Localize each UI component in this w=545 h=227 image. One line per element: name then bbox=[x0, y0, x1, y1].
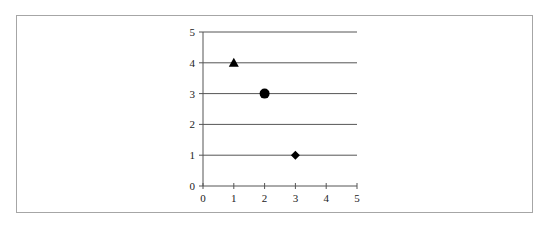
x-tick-label: 1 bbox=[231, 192, 237, 204]
x-tick-labels: 012345 bbox=[200, 192, 360, 204]
x-tick-label: 4 bbox=[323, 192, 329, 204]
y-tick-label: 5 bbox=[190, 26, 196, 38]
scatter-chart: 012345 012345 bbox=[0, 0, 545, 227]
y-tick-label: 3 bbox=[190, 88, 196, 100]
y-tick-label: 0 bbox=[190, 180, 196, 192]
circle-marker-icon bbox=[260, 89, 270, 99]
y-tick-label: 4 bbox=[190, 57, 196, 69]
y-tick-labels: 012345 bbox=[190, 26, 196, 192]
y-axis bbox=[199, 32, 203, 186]
x-tick-label: 0 bbox=[200, 192, 206, 204]
x-tick-label: 5 bbox=[354, 192, 360, 204]
x-tick-label: 2 bbox=[262, 192, 268, 204]
x-tick-label: 3 bbox=[293, 192, 299, 204]
x-axis bbox=[203, 183, 357, 189]
diamond-marker-icon bbox=[291, 151, 300, 160]
y-tick-label: 1 bbox=[190, 149, 196, 161]
data-points bbox=[229, 58, 300, 160]
gridlines bbox=[203, 32, 357, 155]
y-tick-label: 2 bbox=[190, 118, 196, 130]
